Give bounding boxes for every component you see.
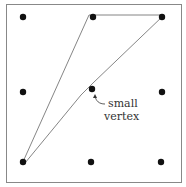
arrow-head-icon bbox=[93, 94, 97, 98]
lattice-diagram: small vertex bbox=[0, 0, 186, 187]
annotation-line2: vertex bbox=[103, 110, 140, 123]
annotation-line1: small bbox=[108, 97, 138, 110]
small-vertex-point bbox=[89, 86, 95, 92]
frame bbox=[7, 5, 182, 183]
